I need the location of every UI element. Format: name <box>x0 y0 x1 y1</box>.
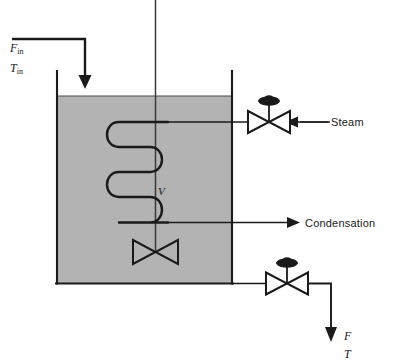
label-temp-out: T <box>344 348 351 360</box>
label-condensation: Condensation <box>305 218 375 229</box>
label-flow-in-subscript: in <box>17 47 23 56</box>
steam-control-valve[interactable] <box>248 95 290 133</box>
steam-valve-body-left <box>248 111 269 133</box>
steam-valve-body-right <box>269 111 290 133</box>
process-diagram-canvas: Fin Tin V Steam Condensation F T <box>0 0 397 364</box>
label-steam: Steam <box>331 117 364 128</box>
outlet-control-valve[interactable] <box>266 257 308 294</box>
outlet-valve-body-left <box>266 273 287 295</box>
tank-liquid-fill <box>57 96 232 283</box>
outlet-pipe-horizontal-right <box>308 284 331 329</box>
label-flow-out: F <box>344 330 351 342</box>
label-flow-in: Fin <box>10 42 24 56</box>
outlet-valve-body-right <box>287 273 308 295</box>
label-temp-in: Tin <box>10 62 23 76</box>
steam-valve-actuator-cap-icon <box>265 95 273 101</box>
inlet-flow-arrowhead <box>79 75 92 89</box>
label-temp-in-subscript: in <box>17 67 23 76</box>
outlet-flow-arrowhead <box>325 327 337 342</box>
label-volume: V <box>158 186 165 197</box>
outlet-valve-actuator-cap-icon <box>283 257 291 263</box>
process-flow-diagram <box>0 0 397 364</box>
condensation-flow-arrowhead <box>287 217 300 228</box>
label-temp-in-symbol: T <box>10 61 17 75</box>
